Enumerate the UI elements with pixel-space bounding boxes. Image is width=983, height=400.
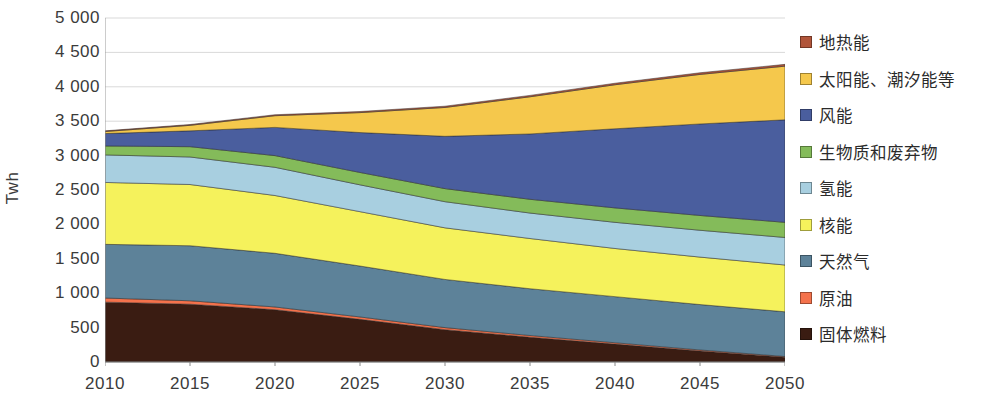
legend-swatch-icon [800,109,812,121]
legend-item[interactable]: 核能 [800,207,980,244]
x-axis-tick-2050: 2050 [750,374,820,394]
x-axis-tick-2025: 2025 [325,374,395,394]
y-axis-tick-2500: 2 500 [14,181,100,198]
x-axis-tick-2015: 2015 [155,374,225,394]
legend-item[interactable]: 天然气 [800,243,980,280]
legend-swatch-icon [800,36,812,48]
y-axis-tick-3000: 3 000 [14,147,100,164]
y-axis-tick-4000: 4 000 [14,78,100,95]
legend-item-label: 核能 [819,213,853,237]
legend-swatch-icon [800,146,812,158]
legend-item-label: 原油 [819,286,853,310]
legend-item[interactable]: 氢能 [800,170,980,207]
legend-item[interactable]: 太阳能、潮汐能等 [800,61,980,98]
legend-item[interactable]: 风能 [800,97,980,134]
legend-swatch-icon [800,73,812,85]
x-axis-tick-2040: 2040 [580,374,650,394]
y-axis-tick-1000: 1 000 [14,284,100,301]
legend-item-label: 固体燃料 [819,322,887,346]
legend-item-label: 地热能 [819,30,870,54]
legend-swatch-icon [800,219,812,231]
y-axis-tick-labels: 5 0004 5004 0003 5003 0002 5002 0001 500… [0,0,100,400]
legend-item[interactable]: 地热能 [800,24,980,61]
x-axis-tick-2020: 2020 [240,374,310,394]
legend-item-label: 太阳能、潮汐能等 [819,67,955,91]
stacked-areas [105,64,785,362]
plot-area [105,8,785,366]
chart-legend: 地热能太阳能、潮汐能等风能生物质和废弃物氢能核能天然气原油固体燃料 [800,24,980,353]
x-axis-tick-2035: 2035 [495,374,565,394]
y-axis-tick-3500: 3 500 [14,112,100,129]
y-axis-tick-0: 0 [14,353,100,370]
legend-item-label: 天然气 [819,249,870,273]
legend-swatch-icon [800,182,812,194]
legend-item-label: 风能 [819,103,853,127]
y-axis-tick-4500: 4 500 [14,43,100,60]
x-axis-tick-2045: 2045 [665,374,735,394]
legend-item-label: 生物质和废弃物 [819,140,938,164]
legend-item[interactable]: 生物质和废弃物 [800,134,980,171]
y-axis-tick-5000: 5 000 [14,9,100,26]
stacked-area-chart: Twh 5 0004 5004 0003 5003 0002 5002 0001… [0,0,983,400]
legend-item[interactable]: 原油 [800,280,980,317]
legend-item-label: 氢能 [819,176,853,200]
legend-swatch-icon [800,255,812,267]
legend-item[interactable]: 固体燃料 [800,316,980,353]
y-axis-tick-1500: 1 500 [14,250,100,267]
legend-swatch-icon [800,292,812,304]
legend-swatch-icon [800,328,812,340]
y-axis-tick-2000: 2 000 [14,215,100,232]
x-axis-tick-2030: 2030 [410,374,480,394]
y-axis-tick-500: 500 [14,319,100,336]
x-axis-tick-2010: 2010 [70,374,140,394]
